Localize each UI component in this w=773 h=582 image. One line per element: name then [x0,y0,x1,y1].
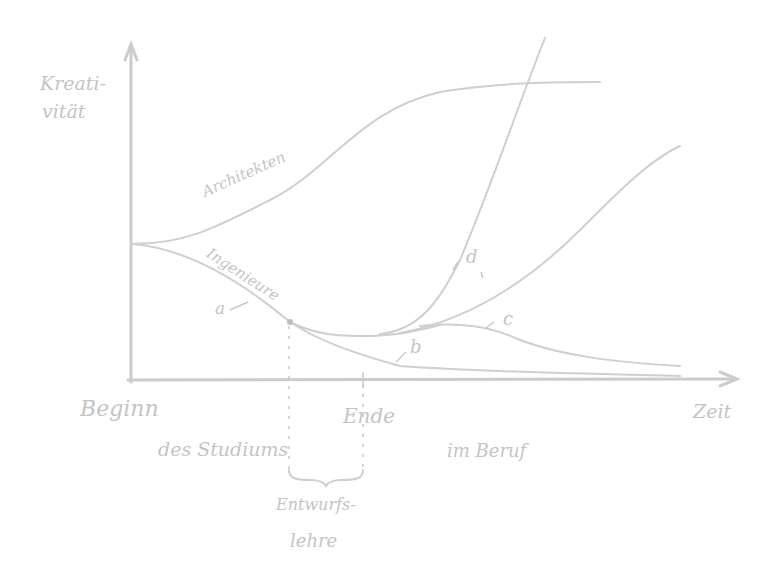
label-b: b [410,338,422,356]
label-beginn: Beginn [80,398,159,420]
x-axis-label: Zeit [693,402,731,421]
curve-c [420,325,680,366]
label-des-studiums: des Studiums [158,440,288,459]
creativity-diagram [0,0,773,582]
point-a-marker [287,319,293,325]
y-axis-label-line1: Kreati- [40,74,106,93]
label-a: a [215,300,225,317]
label-c: c [503,310,513,328]
curve-rising [400,146,680,333]
curve-architects [132,82,600,244]
label-d: d [466,248,478,266]
pointer-c [486,322,494,328]
label-ende: Ende [343,406,395,426]
pointer-rising [481,272,483,278]
x-axis [128,379,735,380]
curve-d [380,38,545,334]
label-entwurfs: Entwurfs- [276,497,356,513]
y-axis-label-line2: vität [42,102,85,121]
design-teaching-brace [289,470,363,486]
label-im-beruf: im Beruf [447,442,526,460]
pointer-b [396,352,406,362]
label-lehre: lehre [290,532,337,550]
pointer-a [230,302,248,310]
